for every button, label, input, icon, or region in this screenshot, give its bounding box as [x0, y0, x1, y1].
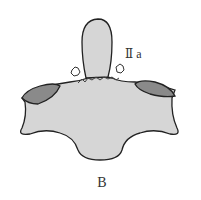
- panel-label: B: [97, 175, 106, 190]
- dens: [82, 19, 112, 78]
- left-fragment: [71, 67, 80, 76]
- vertebra-diagram: Ⅱ a B: [0, 0, 201, 200]
- type-label: Ⅱ a: [125, 47, 142, 61]
- right-fragment: [116, 64, 124, 73]
